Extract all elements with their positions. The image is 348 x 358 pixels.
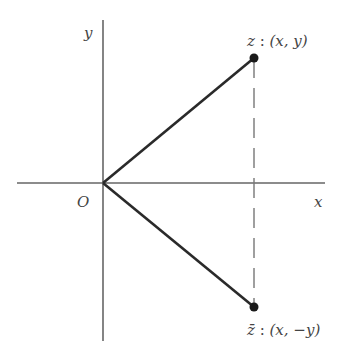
point-zbar-separator: :	[255, 321, 270, 339]
point-z-coords: (x, y)	[270, 32, 308, 50]
point-z	[250, 54, 259, 63]
segment-origin-to-zbar	[103, 183, 254, 307]
origin-label: O	[77, 193, 89, 211]
point-z-label: z : (x, y)	[246, 32, 308, 50]
point-zbar-coords: (x, −y)	[270, 321, 321, 339]
point-zbar-label: z̄ : (x, −y)	[246, 321, 320, 339]
point-zbar	[250, 303, 259, 312]
point-zbar-name: z̄	[246, 321, 255, 339]
complex-conjugate-diagram: y x O z : (x, y) z̄ : (x, −y)	[0, 0, 348, 358]
point-z-name: z	[246, 32, 255, 50]
segment-origin-to-z	[103, 58, 254, 183]
point-z-separator: :	[255, 32, 270, 50]
y-axis-label: y	[83, 24, 93, 42]
x-axis-label: x	[314, 193, 323, 211]
